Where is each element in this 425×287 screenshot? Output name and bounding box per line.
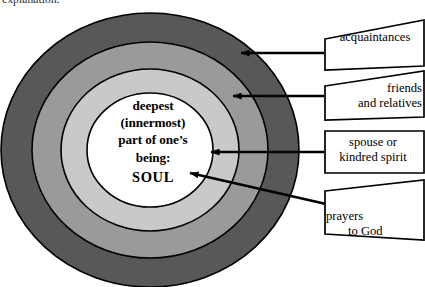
label-spouse-kindred: spouse or kindred spirit [325,135,421,165]
core-circle-text: deepest (innermost) part of one’s being:… [88,97,218,186]
center-line-1: deepest [132,98,173,113]
label-acquaintances: acquaintances [329,30,421,45]
center-line-4: being: [136,150,171,165]
center-line-3: part of one’s [118,132,187,147]
center-line-soul: SOUL [88,169,218,186]
label-friends-relatives: friends and relatives [326,81,422,111]
center-line-2: (innermost) [121,115,186,130]
label-prayers-line1: prayers [326,209,363,223]
box-acquaintances[interactable] [325,20,424,70]
diagram-canvas: explanation. deepest (innermost) part of… [0,0,425,287]
label-prayers-line2: to God [326,224,418,239]
label-prayers-to-god: prayers to God [326,194,418,253]
